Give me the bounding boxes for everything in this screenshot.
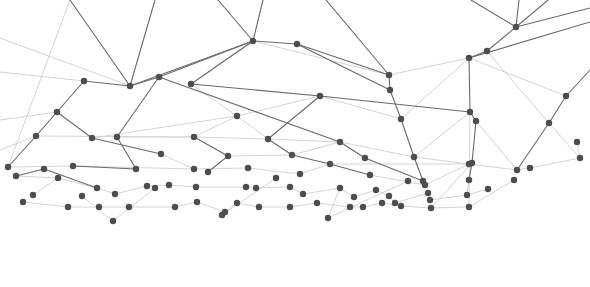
network-node [287, 204, 293, 210]
network-node [467, 109, 473, 115]
network-node [411, 154, 417, 160]
network-node [193, 184, 199, 190]
network-node [577, 155, 583, 161]
network-node [126, 204, 132, 210]
network-node [70, 163, 76, 169]
network-graphic [0, 0, 590, 287]
network-node [256, 204, 262, 210]
network-node [144, 183, 150, 189]
network-node [473, 118, 479, 124]
network-node [89, 135, 95, 141]
network-node [398, 203, 404, 209]
network-node [127, 83, 133, 89]
network-node [166, 182, 172, 188]
network-node [114, 134, 120, 140]
network-node [81, 78, 87, 84]
network-node [289, 152, 295, 158]
network-node [563, 93, 569, 99]
network-node [367, 172, 373, 178]
network-node [225, 153, 231, 159]
network-node [33, 133, 39, 139]
network-node [297, 171, 303, 177]
network-node [205, 169, 211, 175]
network-node [511, 177, 517, 183]
network-node [219, 212, 225, 218]
network-node [546, 120, 552, 126]
network-node [405, 178, 411, 184]
network-node [96, 204, 102, 210]
network-node [469, 160, 475, 166]
network-node [110, 218, 116, 224]
network-node [398, 116, 404, 122]
network-node [133, 166, 139, 172]
network-node [347, 204, 353, 210]
network-node [425, 190, 431, 196]
network-node [527, 165, 533, 171]
network-node [265, 136, 271, 142]
network-node [156, 74, 162, 80]
network-node [152, 185, 158, 191]
network-node [337, 139, 343, 145]
network-node [317, 93, 323, 99]
network-node [513, 24, 519, 30]
network-node [234, 113, 240, 119]
network-node [243, 184, 249, 190]
network-node [466, 204, 472, 210]
network-node [386, 193, 392, 199]
network-node [387, 87, 393, 93]
network-node [13, 173, 19, 179]
network-node [188, 81, 194, 87]
network-node [485, 186, 491, 192]
network-node [428, 205, 434, 211]
network-node [327, 161, 333, 167]
network-node [172, 204, 178, 210]
network-node [54, 109, 60, 115]
network-node [351, 194, 357, 200]
network-node [250, 38, 256, 44]
network-node [234, 200, 240, 206]
network-node [273, 175, 279, 181]
network-node [65, 204, 71, 210]
network-node [191, 166, 197, 172]
network-node [41, 166, 47, 172]
network-node [20, 199, 26, 205]
network-node [245, 165, 251, 171]
network-node [112, 191, 118, 197]
network-node [191, 134, 197, 140]
network-node [466, 55, 472, 61]
network-node [574, 139, 580, 145]
network-node [287, 184, 293, 190]
network-node [484, 48, 490, 54]
network-node [373, 187, 379, 193]
network-node [94, 185, 100, 191]
network-node [194, 199, 200, 205]
network-node [325, 215, 331, 221]
network-node [253, 185, 259, 191]
network-node [300, 191, 306, 197]
network-node [158, 151, 164, 157]
network-node [386, 72, 392, 78]
network-node [5, 164, 11, 170]
network-node [30, 192, 36, 198]
network-node [514, 167, 520, 173]
network-node [314, 200, 320, 206]
network-node [362, 155, 368, 161]
network-node [337, 185, 343, 191]
network-node [79, 193, 85, 199]
network-node [392, 200, 398, 206]
network-node [55, 175, 61, 181]
network-node [294, 41, 300, 47]
network-node [379, 200, 385, 206]
network-node [466, 177, 472, 183]
network-node [422, 182, 428, 188]
network-node [427, 197, 433, 203]
network-node [360, 204, 366, 210]
network-node [464, 192, 470, 198]
